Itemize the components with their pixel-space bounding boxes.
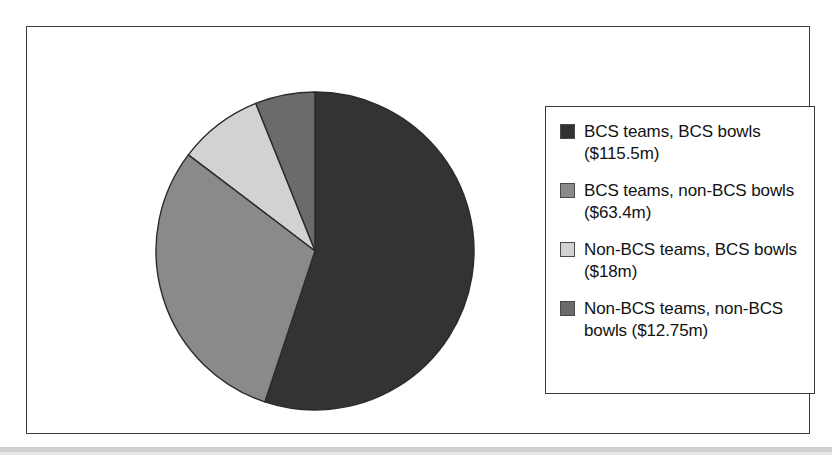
legend-label: Non-BCS teams, non-BCS bowls ($12.75m) [584,298,802,341]
legend-label: BCS teams, BCS bowls ($115.5m) [584,121,802,164]
chart-outer-frame: BCS teams, BCS bowls ($115.5m) BCS teams… [26,26,810,434]
legend-item[interactable]: BCS teams, non-BCS bowls ($63.4m) [560,180,804,223]
legend-swatch-non-bcs-teams-non-bcs-bowls [560,301,575,316]
legend-swatch-bcs-teams-bcs-bowls [560,124,575,139]
legend-item[interactable]: Non-BCS teams, BCS bowls ($18m) [560,239,804,282]
legend-label: BCS teams, non-BCS bowls ($63.4m) [584,180,802,223]
legend-label: Non-BCS teams, BCS bowls ($18m) [584,239,802,282]
pie-chart-svg [154,90,476,412]
legend-swatch-bcs-teams-non-bcs-bowls [560,183,575,198]
legend-item[interactable]: Non-BCS teams, non-BCS bowls ($12.75m) [560,298,804,341]
pie-chart [154,90,476,412]
figure-canvas: BCS teams, BCS bowls ($115.5m) BCS teams… [0,0,832,455]
legend-item[interactable]: BCS teams, BCS bowls ($115.5m) [560,121,804,164]
pie-slice-group [156,92,474,410]
chart-legend: BCS teams, BCS bowls ($115.5m) BCS teams… [545,106,815,394]
legend-swatch-non-bcs-teams-bcs-bowls [560,242,575,257]
